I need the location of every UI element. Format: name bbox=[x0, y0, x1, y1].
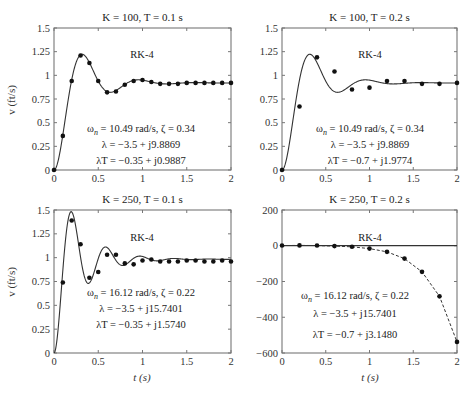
rk4-data-point bbox=[297, 243, 302, 248]
annotation-line: λ = −3.5 + j9.8869 bbox=[331, 139, 409, 150]
y-tick-label: 0.75 bbox=[32, 94, 50, 105]
chart-title: K = 250, T = 0.2 s bbox=[329, 193, 409, 205]
rk4-data-point bbox=[158, 259, 163, 264]
x-tick-label: 0 bbox=[279, 173, 284, 184]
x-tick-label: 1 bbox=[367, 356, 372, 367]
rk4-data-point bbox=[69, 218, 74, 223]
rk4-data-point bbox=[350, 245, 355, 250]
y-tick-label: 0.25 bbox=[260, 141, 278, 152]
y-tick-label: 1 bbox=[273, 70, 278, 81]
x-tick-label: 1.5 bbox=[180, 356, 193, 367]
rk4-data-point bbox=[167, 259, 172, 264]
y-tick-label: 0 bbox=[273, 240, 278, 251]
y-tick-label: 1.25 bbox=[260, 46, 278, 57]
rk4-data-point bbox=[193, 81, 198, 86]
rk4-data-point bbox=[149, 257, 154, 262]
rk4-data-point bbox=[220, 81, 225, 86]
y-tick-label: 1 bbox=[45, 252, 50, 263]
rk4-data-point bbox=[402, 256, 407, 261]
rk4-data-point bbox=[280, 243, 285, 248]
chart-panel-k100-t01: K = 100, T = 0.1 s00.511.5200.250.50.751… bbox=[32, 11, 234, 184]
y-tick-label: −400 bbox=[256, 312, 278, 323]
annotation-line: λT = −0.7 + j3.1480 bbox=[313, 329, 398, 340]
y-tick-label: 0 bbox=[45, 348, 50, 359]
x-tick-label: 1.5 bbox=[407, 173, 420, 184]
annotation-line: λ = −3.5 + j9.8869 bbox=[102, 139, 180, 150]
figure-canvas: K = 100, T = 0.1 s00.511.5200.250.50.751… bbox=[0, 0, 471, 393]
y-tick-label: 0.25 bbox=[32, 324, 50, 335]
chart-title: K = 100, T = 0.1 s bbox=[102, 11, 182, 23]
y-tick-label: 200 bbox=[262, 205, 278, 216]
rk4-data-point bbox=[158, 82, 163, 87]
y-tick-label: 1 bbox=[45, 70, 50, 81]
rk4-data-point bbox=[140, 258, 145, 263]
exact-response-line bbox=[282, 54, 457, 170]
y-tick-label: −600 bbox=[256, 348, 278, 359]
rk4-data-point bbox=[52, 168, 57, 173]
rk4-data-point bbox=[114, 253, 119, 258]
x-tick-label: 0.5 bbox=[319, 356, 332, 367]
y-tick-label: 1.25 bbox=[32, 46, 50, 57]
rk4-data-point bbox=[114, 89, 119, 94]
y-tick-label: 0.5 bbox=[37, 117, 50, 128]
rk4-data-point bbox=[87, 61, 92, 66]
y-tick-label: 0.5 bbox=[37, 300, 50, 311]
rk4-data-point bbox=[176, 259, 181, 264]
annotation-line: λT = −0.7 + j1.9774 bbox=[328, 155, 413, 166]
chart-panel-k100-t02: K = 100, T = 0.2 s00.511.5200.250.50.751… bbox=[260, 11, 460, 184]
plot-area bbox=[282, 54, 457, 170]
rk4-data-point bbox=[211, 259, 216, 264]
annotation-line: λT = −0.35 + j0.9887 bbox=[96, 155, 186, 166]
chart-title: K = 250, T = 0.1 s bbox=[102, 193, 182, 205]
rk4-data-point bbox=[87, 275, 92, 280]
x-tick-label: 1 bbox=[367, 173, 372, 184]
rk4-data-point bbox=[105, 253, 110, 258]
y-tick-label: 1.5 bbox=[37, 23, 50, 34]
rk4-data-point bbox=[96, 270, 101, 275]
rk4-data-point bbox=[69, 79, 74, 84]
x-tick-label: 2 bbox=[228, 356, 233, 367]
annotation-line: ωn = 16.12 rad/s, ζ = 0.22 bbox=[87, 287, 195, 301]
rk4-data-point bbox=[437, 294, 442, 299]
rk4-data-point bbox=[332, 69, 337, 74]
chart-panel-k250-t02: K = 250, T = 0.2 s00.511.52−600−400−2000… bbox=[256, 193, 459, 384]
rk4-data-point bbox=[315, 55, 320, 60]
x-tick-label: 2 bbox=[454, 173, 459, 184]
rk4-data-point bbox=[315, 243, 320, 248]
rk4-data-point bbox=[280, 168, 285, 173]
rk4-data-point bbox=[385, 79, 390, 84]
rk4-data-point bbox=[367, 246, 372, 251]
rk4-data-point bbox=[367, 85, 372, 90]
annotation-line: ωn = 10.49 rad/s, ζ = 0.34 bbox=[316, 123, 425, 137]
rk4-data-point bbox=[437, 82, 442, 87]
rk4-data-point bbox=[167, 82, 172, 87]
rk4-data-point bbox=[78, 242, 83, 247]
rk4-data-point bbox=[202, 81, 207, 86]
y-tick-label: 0 bbox=[273, 165, 278, 176]
annotation-line: λT = −0.35 + j1.5740 bbox=[96, 319, 186, 330]
x-tick-label: 0.5 bbox=[92, 173, 105, 184]
y-tick-label: 0.75 bbox=[32, 276, 50, 287]
rk4-data-point bbox=[184, 258, 189, 263]
x-tick-label: 0 bbox=[51, 173, 56, 184]
rk4-data-point bbox=[402, 79, 407, 84]
annotation-line: λ = −3.5 + j15.7401 bbox=[99, 303, 183, 314]
rk4-data-point bbox=[385, 250, 390, 255]
rk4-data-point bbox=[123, 83, 128, 88]
rk4-data-point bbox=[229, 259, 234, 264]
y-tick-label: −200 bbox=[256, 276, 278, 287]
rk4-data-point bbox=[332, 244, 337, 249]
rk4-data-point bbox=[220, 258, 225, 263]
chart-title: K = 100, T = 0.2 s bbox=[329, 11, 409, 23]
rk4-data-point bbox=[297, 104, 302, 109]
rk4-data-point bbox=[96, 79, 101, 84]
rk4-data-point bbox=[420, 82, 425, 87]
x-tick-label: 1 bbox=[140, 173, 145, 184]
rk4-data-point bbox=[184, 81, 189, 86]
rk4-data-point bbox=[350, 87, 355, 92]
x-tick-label: 0 bbox=[51, 356, 56, 367]
rk4-data-point bbox=[78, 53, 83, 58]
x-tick-label: 2 bbox=[454, 356, 459, 367]
method-label: RK-4 bbox=[358, 232, 382, 243]
x-tick-label: 0.5 bbox=[92, 356, 105, 367]
